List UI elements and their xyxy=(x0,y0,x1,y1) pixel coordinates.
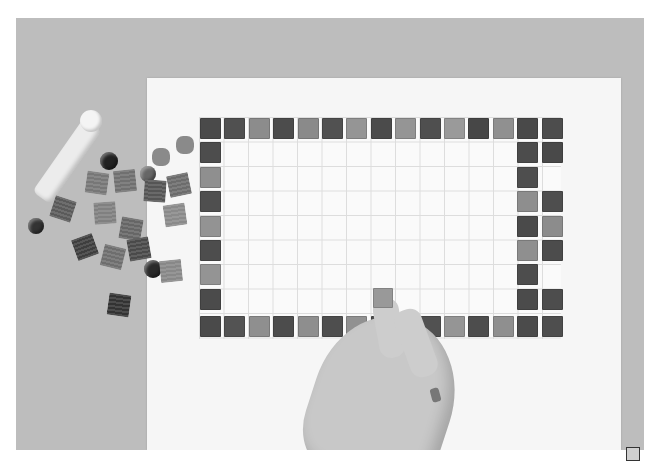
mosaic-tile xyxy=(517,216,538,237)
loose-tile xyxy=(163,203,188,228)
mosaic-tile xyxy=(322,118,343,139)
loose-tile xyxy=(159,259,183,283)
mosaic-tile xyxy=(542,142,563,163)
glue-cap xyxy=(80,110,102,132)
mosaic-tile xyxy=(468,118,489,139)
mosaic-tile xyxy=(444,118,465,139)
mosaic-tile xyxy=(517,264,538,285)
mosaic-tile xyxy=(542,191,563,212)
loose-tile xyxy=(100,244,127,271)
mosaic-tile xyxy=(493,316,514,337)
mosaic-tile xyxy=(517,316,538,337)
mosaic-tile xyxy=(200,240,221,261)
mosaic-tile xyxy=(224,118,245,139)
mosaic-tile xyxy=(200,316,221,337)
mosaic-tile xyxy=(444,316,465,337)
mosaic-tile xyxy=(517,142,538,163)
loose-tile xyxy=(113,169,137,193)
mosaic-tile xyxy=(200,289,221,310)
mosaic-tile xyxy=(200,191,221,212)
loose-tile xyxy=(85,171,110,196)
mosaic-tile xyxy=(200,118,221,139)
mosaic-tile xyxy=(542,118,563,139)
mosaic-tile xyxy=(542,240,563,261)
mosaic-tile xyxy=(273,316,294,337)
mosaic-tile xyxy=(298,316,319,337)
mosaic-tile xyxy=(200,167,221,188)
mosaic-tile xyxy=(395,118,416,139)
mosaic-tile xyxy=(517,191,538,212)
mosaic-tile xyxy=(200,216,221,237)
mosaic-tile xyxy=(517,118,538,139)
mosaic-tile xyxy=(517,289,538,310)
mosaic-tile xyxy=(298,118,319,139)
held-tile xyxy=(373,288,393,308)
loose-tile xyxy=(93,201,116,224)
mosaic-tile xyxy=(200,142,221,163)
flower-tile xyxy=(176,136,194,154)
mosaic-tile xyxy=(517,240,538,261)
glass-gem xyxy=(100,152,118,170)
mosaic-tile xyxy=(224,316,245,337)
mosaic-tile xyxy=(493,118,514,139)
loose-tile xyxy=(126,236,151,261)
mosaic-tile xyxy=(542,316,563,337)
mosaic-tile xyxy=(517,167,538,188)
loose-tile xyxy=(107,293,132,318)
photo xyxy=(16,18,644,450)
mosaic-tile xyxy=(371,118,392,139)
loose-tile xyxy=(71,233,99,261)
glass-gem xyxy=(28,218,44,234)
mosaic-tile xyxy=(420,118,441,139)
loose-tile xyxy=(49,195,77,223)
mosaic-tile xyxy=(468,316,489,337)
mosaic-tile xyxy=(322,316,343,337)
mosaic-tile xyxy=(346,118,367,139)
mosaic-tile xyxy=(273,118,294,139)
loose-tile xyxy=(166,172,192,198)
flower-tile xyxy=(152,148,170,166)
mosaic-tile xyxy=(542,216,563,237)
corner-marker xyxy=(626,447,640,461)
mosaic-tile xyxy=(249,118,270,139)
mosaic-tile xyxy=(249,316,270,337)
mosaic-tile xyxy=(200,264,221,285)
loose-tile xyxy=(143,179,166,202)
mosaic-tile xyxy=(542,289,563,310)
